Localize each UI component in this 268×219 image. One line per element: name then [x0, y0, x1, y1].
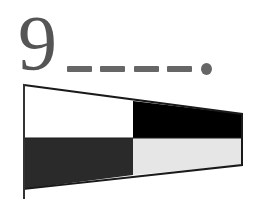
flag-quadrant-bottom-left	[24, 138, 133, 189]
signal-flag-pennant-9	[0, 0, 268, 219]
flag-quadrant-bottom-right	[133, 138, 242, 175]
